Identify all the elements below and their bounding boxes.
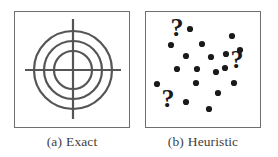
caption-exact: (a)Exact	[14, 132, 130, 152]
scatter-dot	[223, 51, 229, 57]
caption-heuristic: (b)Heuristic	[145, 132, 261, 152]
question-mark-glyph: ?	[162, 84, 175, 113]
scatter-dot	[193, 80, 199, 86]
scatter-dot	[199, 41, 205, 47]
scatter-dot	[183, 99, 189, 105]
scatter-dot	[194, 66, 200, 72]
scatter-dot	[231, 80, 237, 86]
panel-exact	[14, 11, 130, 128]
scatter-dot	[174, 66, 180, 72]
scatter-dot	[222, 65, 228, 71]
caption-heuristic-text: Heuristic	[188, 134, 238, 149]
caption-heuristic-label: (b)	[168, 134, 184, 149]
question-mark-glyph: ?	[171, 13, 184, 42]
scatter-dot	[208, 54, 214, 60]
question-mark-glyph: ?	[231, 45, 244, 74]
figure-container: ??? (a)Exact (b)Heuristic	[0, 0, 278, 157]
panel-heuristic: ???	[145, 11, 261, 128]
scatter-dot	[213, 69, 219, 75]
scatter-dot	[229, 33, 235, 39]
scatter-dots-graphic: ???	[146, 12, 260, 127]
scatter-dot	[168, 42, 174, 48]
caption-exact-text: Exact	[66, 134, 97, 149]
scatter-dot	[154, 81, 160, 87]
scatter-dot	[187, 26, 193, 32]
question-mark-group: ???	[162, 13, 244, 113]
bullseye-target-graphic	[15, 12, 129, 127]
caption-exact-label: (a)	[47, 134, 62, 149]
scatter-dot	[206, 106, 212, 112]
scatter-dot	[183, 53, 189, 59]
scatter-dot	[215, 90, 221, 96]
